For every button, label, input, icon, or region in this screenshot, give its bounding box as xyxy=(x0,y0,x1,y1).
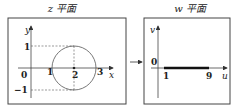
origin-label: 0 xyxy=(21,70,27,80)
x-tick-1: 1 xyxy=(47,67,53,77)
z-plane-panel: z 平面 y x 0 1 2 3 1 −1 xyxy=(8,3,126,104)
y-tick-1: 1 xyxy=(24,42,30,52)
x-tick-2: 2 xyxy=(72,70,78,80)
w-plane-title: w 平面 xyxy=(174,3,208,14)
segment-start-label: 1 xyxy=(163,71,169,81)
y-axis-label: y xyxy=(24,25,31,35)
segment-end-label: 9 xyxy=(206,71,212,81)
x-tick-3: 3 xyxy=(97,67,103,77)
x-axis-label: x xyxy=(109,70,114,80)
y-tick-minus1: −1 xyxy=(14,85,28,95)
w-plane-panel: w 平面 v u 0 1 9 xyxy=(144,3,230,104)
u-axis-label: u xyxy=(222,71,228,81)
center-point xyxy=(73,67,76,70)
w-origin-label: 0 xyxy=(151,57,157,67)
v-axis-label: v xyxy=(150,25,155,35)
z-plane-title: z 平面 xyxy=(47,3,78,14)
mapping-diagram: z 平面 y x 0 1 2 3 1 −1 w 平面 v u 0 1 9 xyxy=(0,0,242,109)
